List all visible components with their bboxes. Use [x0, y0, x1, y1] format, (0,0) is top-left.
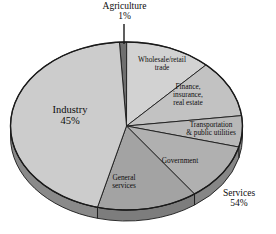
industry-pct: 45%: [28, 115, 112, 126]
government-name: Government: [162, 156, 198, 165]
label-industry: Industry 45%: [28, 104, 112, 127]
wholesale-line2: trade: [124, 64, 200, 72]
label-wholesale-retail-trade: Wholesale/retail trade: [124, 56, 200, 72]
services-pct: 54%: [205, 198, 273, 208]
pie-chart: Agriculture 1% Wholesale/retail trade Fi…: [0, 0, 276, 234]
label-transportation-public-utilities: Transportation & public utilities: [163, 121, 259, 137]
finance-line3: real estate: [152, 99, 224, 107]
agriculture-name: Agriculture: [103, 1, 147, 11]
transportation-line2: & public utilities: [163, 129, 259, 137]
label-government: Government: [144, 157, 216, 165]
label-general-services: General services: [96, 174, 152, 190]
agriculture-pct: 1%: [72, 11, 177, 21]
industry-name: Industry: [53, 104, 88, 115]
label-agriculture: Agriculture 1%: [72, 1, 177, 22]
services-name: Services: [223, 188, 255, 198]
general-services-line2: services: [96, 182, 152, 190]
label-finance-insurance-real-estate: Finance, insurance, real estate: [152, 83, 224, 107]
label-services: Services 54%: [205, 188, 273, 209]
